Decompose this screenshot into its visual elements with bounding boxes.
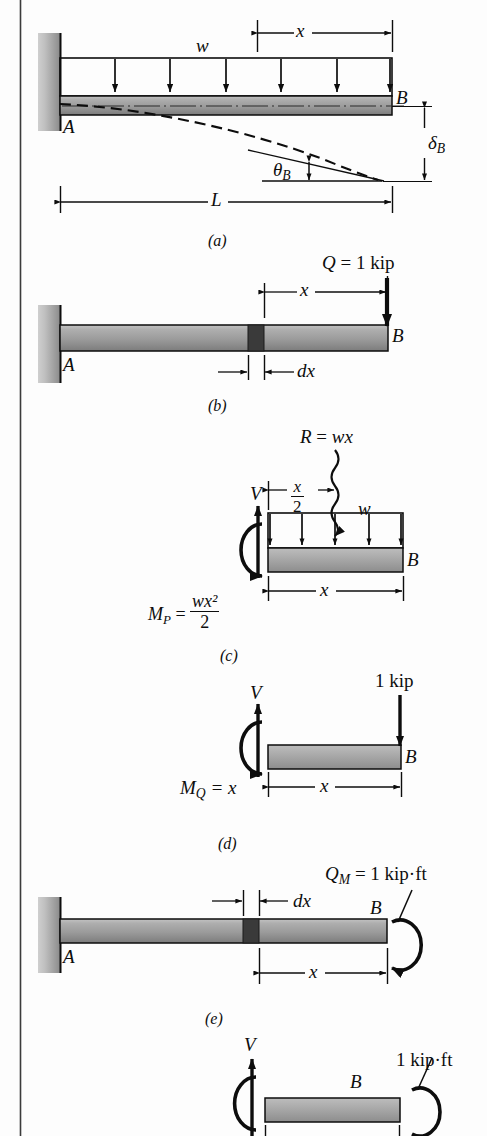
unit-moment-arrow-f	[412, 1088, 440, 1136]
label-distributed-load-panel-a: w	[196, 36, 209, 55]
label-dim-x-panel-d: x	[320, 776, 328, 795]
dim-dx-e	[212, 890, 288, 916]
wall-support-a	[38, 33, 60, 131]
label-resultant-panel-c: R = wx	[300, 427, 353, 446]
label-moment-mp-panel-c: MP = wx²2	[148, 592, 219, 633]
unit-moment-leader-e	[398, 890, 412, 922]
dim-x-d	[269, 772, 402, 797]
dim-x-e	[260, 948, 388, 984]
label-unit-moment-panel-e: QM = 1 kip·ft	[325, 864, 427, 887]
label-distributed-load-panel-c: w	[358, 499, 371, 518]
label-dim-dx-panel-e: dx	[293, 891, 311, 910]
qm-symbol: Q	[325, 863, 339, 884]
dim-x-c	[269, 576, 404, 601]
beam-b	[60, 325, 388, 351]
mq-equals-x: = x	[210, 777, 236, 798]
label-support-a-panel-b: A	[63, 355, 75, 374]
label-support-a-panel-a: A	[63, 117, 75, 136]
dim-L-a	[61, 186, 393, 213]
label-dim-half-x-panel-c: x2	[291, 478, 304, 516]
label-tip-b-panel-a: B	[396, 88, 408, 107]
label-shear-v-panel-f: V	[244, 1035, 256, 1054]
distributed-load-arrows-c	[270, 514, 401, 545]
theta-symbol: θ	[273, 159, 282, 180]
panel-caption-c: (c)	[220, 648, 238, 664]
resultant-arrow-c	[332, 450, 339, 536]
label-tip-b-panel-d: B	[405, 747, 417, 766]
label-dim-x-panel-b: x	[300, 280, 308, 299]
label-unit-load-panel-d: 1 kip	[375, 671, 414, 690]
qm-value: = 1 kip·ft	[355, 863, 427, 884]
half-x-numerator: x	[291, 478, 304, 497]
half-x-denominator: 2	[291, 497, 304, 516]
mp-numerator: wx²	[190, 592, 219, 612]
label-dim-L-panel-a: L	[211, 190, 222, 209]
wall-support-b	[38, 305, 60, 383]
label-dim-dx-panel-b: dx	[297, 361, 315, 380]
mp-denominator: 2	[190, 612, 219, 632]
panel-b	[38, 276, 388, 383]
mp-subscript: P	[163, 612, 171, 627]
beam-segment-c	[268, 548, 403, 572]
panel-caption-d: (d)	[218, 836, 237, 852]
mq-symbol: M	[180, 777, 196, 798]
label-tip-b-panel-b: B	[392, 326, 404, 345]
dim-dx-b	[218, 355, 294, 380]
beam-figure: A B w x L δB θB (a) A B Q = 1 kip x dx (…	[0, 0, 487, 1136]
label-tip-b-panel-c: B	[407, 550, 419, 569]
panel-e	[38, 890, 421, 984]
dim-x-a	[258, 20, 393, 52]
label-unit-load-panel-b: Q = 1 kip	[322, 253, 394, 272]
label-shear-v-panel-c: V	[250, 484, 262, 503]
panel-caption-e: (e)	[205, 1011, 223, 1027]
panel-caption-a: (a)	[208, 233, 227, 249]
distributed-load-arrows-a	[115, 59, 390, 92]
label-dim-x-panel-e: x	[309, 962, 317, 981]
dim-delta-b-a	[383, 107, 432, 182]
label-deflection-delta-b: δB	[428, 133, 445, 156]
beam-segment-d	[268, 745, 401, 769]
dx-element-b	[248, 325, 264, 351]
beam-e	[60, 919, 387, 943]
dx-element-e	[243, 919, 259, 943]
tangent-line-a	[248, 150, 384, 181]
label-shear-v-panel-d: V	[250, 683, 262, 702]
theta-subscript: B	[282, 168, 290, 183]
panel-a	[38, 20, 432, 213]
mp-symbol: M	[148, 604, 163, 624]
dim-x-b	[265, 276, 388, 318]
unit-moment-arrow-e	[392, 920, 421, 970]
label-dim-x-panel-c: x	[320, 580, 328, 599]
label-support-a-panel-e: A	[63, 947, 75, 966]
delta-subscript: B	[437, 141, 445, 156]
panel-caption-b: (b)	[208, 398, 227, 414]
label-dim-x-panel-a: x	[296, 21, 304, 40]
label-unit-moment-panel-f: 1 kip·ft	[396, 1050, 452, 1069]
label-moment-mq-panel-d: MQ = x	[180, 778, 236, 801]
qm-subscript: M	[339, 872, 350, 887]
mq-subscript: Q	[196, 786, 206, 801]
wall-support-e	[38, 897, 60, 973]
beam-segment-f	[265, 1098, 400, 1122]
mp-equals: =	[175, 604, 185, 624]
label-tip-b-panel-f: B	[350, 1072, 362, 1091]
delta-symbol: δ	[428, 132, 437, 153]
label-rotation-theta-b: θB	[273, 160, 291, 183]
label-tip-b-panel-e: B	[370, 898, 382, 917]
